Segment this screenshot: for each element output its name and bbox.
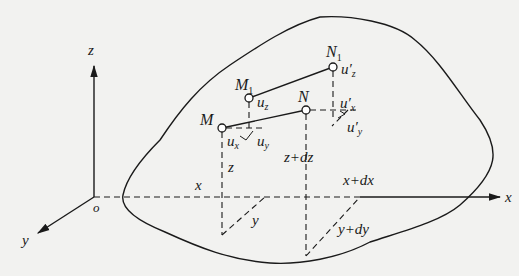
label-uy: uy	[257, 133, 270, 151]
x-axis-label: x	[504, 189, 512, 205]
label-M: M	[199, 111, 215, 128]
origin-label: o	[93, 200, 100, 215]
ux-arrow-icon	[240, 131, 253, 140]
label-uz: uz	[257, 94, 269, 112]
label-ux: ux	[227, 133, 240, 151]
y-axis	[38, 197, 94, 233]
label-M1: M1	[234, 76, 253, 96]
coord-z: z	[227, 159, 234, 175]
label-uy-prime: u′y	[347, 119, 363, 137]
label-N: N	[297, 88, 310, 105]
coord-x-dx: x+dx	[342, 172, 374, 188]
deformation-diagram: z x y o M M1 N N1 ux uy uz u′z u′x u′y x…	[0, 0, 519, 276]
segment-MN	[222, 110, 306, 128]
point-N1	[329, 63, 337, 71]
ux-prime-arrow-icon	[338, 111, 345, 118]
label-uz-prime: u′z	[341, 61, 356, 79]
point-N	[302, 106, 310, 114]
coord-y: y	[250, 212, 259, 228]
z-axis-label: z	[87, 42, 94, 58]
coord-x: x	[194, 177, 202, 193]
coord-z-dz: z+dz	[283, 149, 313, 165]
point-M	[218, 124, 226, 132]
label-N1: N1	[325, 43, 342, 63]
coord-y-dy: y+dy	[336, 221, 369, 237]
label-ux-prime: u′x	[340, 95, 356, 113]
n1-uy-line	[332, 110, 348, 126]
body-outline	[123, 17, 493, 264]
y-axis-label: y	[20, 232, 29, 248]
